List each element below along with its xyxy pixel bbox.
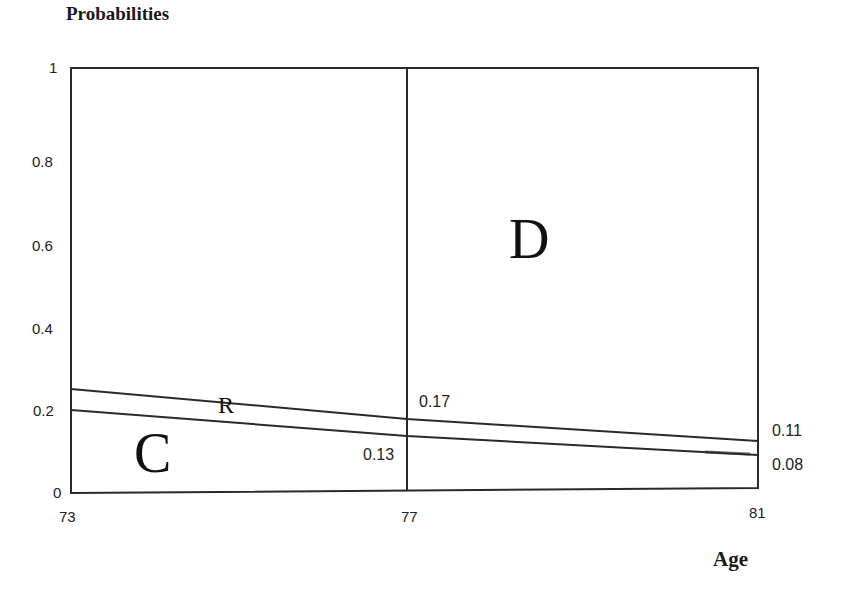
- annotation-0-13: 0.13: [363, 446, 394, 464]
- y-tick-0: 0: [53, 484, 61, 501]
- x-axis-title: Age: [713, 547, 748, 572]
- region-label-r: R: [218, 392, 234, 419]
- x-tick-81: 81: [749, 504, 766, 521]
- curve-ink-smudge: [705, 452, 750, 454]
- x-tick-77: 77: [401, 508, 418, 525]
- annotation-0-17: 0.17: [419, 393, 450, 411]
- region-label-c: C: [134, 421, 171, 485]
- annotation-0-11: 0.11: [772, 422, 802, 440]
- lower-curve: [71, 410, 758, 455]
- plot-frame: [71, 68, 758, 493]
- probability-chart: Probabilities 1 0.8 0.6 0.4 0.2 0 73 77 …: [0, 0, 847, 594]
- x-tick-73: 73: [59, 508, 76, 525]
- plot-area: [0, 0, 847, 594]
- upper-curve: [71, 389, 758, 441]
- region-label-d: D: [509, 207, 549, 271]
- y-tick-0-6: 0.6: [32, 237, 53, 254]
- y-tick-1: 1: [49, 59, 57, 76]
- y-tick-0-2: 0.2: [33, 402, 54, 419]
- annotation-0-08: 0.08: [772, 456, 803, 474]
- y-tick-0-4: 0.4: [32, 320, 53, 337]
- y-tick-0-8: 0.8: [32, 153, 53, 170]
